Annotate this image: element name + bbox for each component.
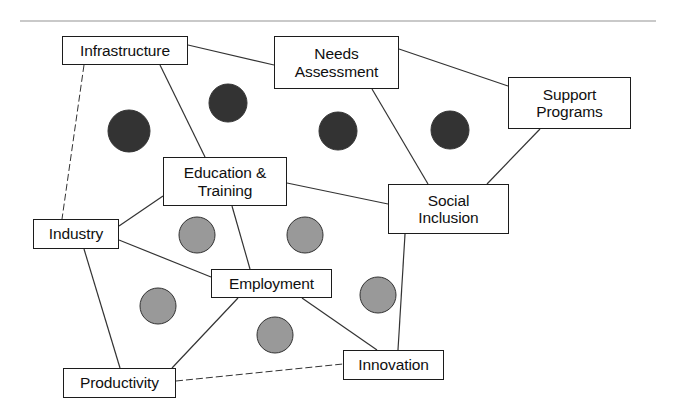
edge-productivity-to-innovation bbox=[176, 364, 343, 381]
edge-employment-to-productivity bbox=[172, 298, 238, 368]
node-label-industry: Industry bbox=[49, 225, 103, 242]
node-box-support[interactable]: Support Programs bbox=[508, 77, 631, 129]
edge-needs-to-social bbox=[372, 89, 428, 184]
top-divider-rule bbox=[20, 20, 656, 22]
edge-industry-to-productivity bbox=[84, 249, 120, 368]
dark-circle-3 bbox=[319, 112, 357, 150]
node-label-infrastructure: Infrastructure bbox=[80, 42, 170, 59]
diagram-canvas: InfrastructureNeeds AssessmentSupport Pr… bbox=[0, 0, 674, 416]
edge-education-to-employment bbox=[232, 206, 250, 269]
light-circle-4 bbox=[360, 277, 396, 313]
node-label-social: Social Inclusion bbox=[418, 192, 478, 227]
light-circle-1 bbox=[179, 217, 215, 253]
node-label-productivity: Productivity bbox=[80, 374, 159, 391]
node-box-infrastructure[interactable]: Infrastructure bbox=[62, 36, 188, 65]
node-box-education[interactable]: Education & Training bbox=[163, 157, 287, 206]
edge-infrastructure-to-education bbox=[160, 65, 205, 157]
node-box-industry[interactable]: Industry bbox=[33, 219, 119, 249]
node-label-support: Support Programs bbox=[536, 86, 602, 121]
light-circle-3 bbox=[140, 288, 176, 324]
edge-education-to-industry bbox=[119, 196, 163, 226]
node-label-needs: Needs Assessment bbox=[295, 45, 378, 80]
dark-circle-1 bbox=[108, 110, 150, 152]
edge-infrastructure-to-needs bbox=[188, 45, 274, 65]
edge-infrastructure-to-industry bbox=[62, 65, 84, 219]
node-label-innovation: Innovation bbox=[358, 356, 429, 373]
node-box-employment[interactable]: Employment bbox=[211, 269, 332, 298]
node-box-social[interactable]: Social Inclusion bbox=[388, 184, 509, 234]
node-box-needs[interactable]: Needs Assessment bbox=[274, 36, 399, 89]
node-box-productivity[interactable]: Productivity bbox=[63, 368, 176, 398]
dark-circle-4 bbox=[431, 111, 469, 149]
node-label-education: Education & Training bbox=[184, 164, 267, 199]
edge-needs-to-support bbox=[399, 49, 508, 86]
node-label-employment: Employment bbox=[229, 275, 314, 292]
dark-circle-2 bbox=[209, 84, 247, 122]
light-circle-2 bbox=[287, 217, 323, 253]
light-circle-5 bbox=[257, 317, 293, 353]
edge-social-to-innovation bbox=[398, 234, 405, 350]
node-box-innovation[interactable]: Innovation bbox=[343, 350, 444, 380]
edge-support-to-social bbox=[487, 129, 540, 184]
edge-education-to-social bbox=[287, 183, 388, 204]
